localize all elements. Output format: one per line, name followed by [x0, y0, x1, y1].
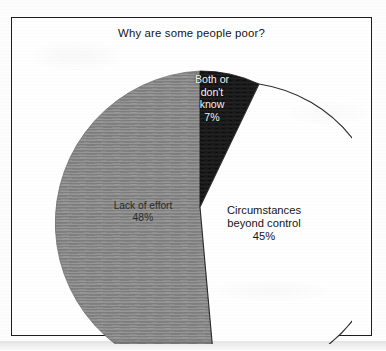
- chart-frame: Why are some people poor?: [11, 17, 372, 336]
- screenshot-page: Why are some people poor?: [0, 0, 386, 351]
- pie-slice-lack-of-effort-texture: [55, 71, 215, 344]
- pie-chart-svg: [52, 54, 352, 344]
- pie-chart: [52, 54, 352, 344]
- chart-title: Why are some people poor?: [12, 27, 371, 39]
